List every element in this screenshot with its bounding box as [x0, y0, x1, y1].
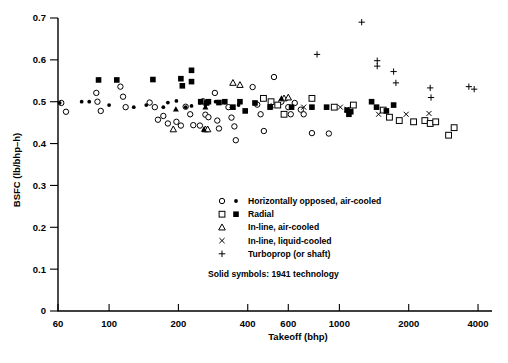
data-point-square-filled — [180, 83, 186, 89]
y-tick-label: 0.6 — [33, 54, 46, 65]
data-point-circle-open — [206, 115, 211, 120]
data-point-cross-x — [404, 112, 409, 117]
legend-label: In-line, liquid-cooled — [248, 236, 332, 246]
data-point-square-filled — [374, 104, 380, 110]
data-point-square-filled — [252, 100, 258, 106]
data-point-square-open — [427, 121, 433, 127]
legend-x-icon — [219, 238, 224, 243]
data-point-circle-open — [301, 112, 306, 117]
data-point-circle-open — [178, 123, 183, 128]
data-point-circle-filled — [132, 105, 136, 109]
data-point-square-filled — [324, 104, 330, 110]
data-point-circle-filled — [166, 101, 170, 105]
legend-label: Turboprop (or shaft) — [248, 249, 331, 259]
data-point-plus — [374, 58, 380, 64]
data-point-circle-filled — [161, 105, 165, 109]
data-point-triangle-open — [237, 82, 243, 88]
legend-square-open-icon — [219, 211, 225, 217]
y-tick-label: 0.2 — [33, 222, 46, 233]
legend-entry: In-line, air-cooled — [219, 222, 319, 232]
x-tick-label: 1000 — [329, 318, 350, 329]
legend-entry: Horizontally opposed, air-cooled — [219, 196, 381, 206]
data-point-square-filled — [206, 99, 212, 105]
scatter-chart-figure: 00.10.20.30.40.50.60.7 60100200400600100… — [0, 0, 508, 363]
data-point-circle-filled — [190, 104, 194, 108]
data-point-square-filled — [189, 68, 195, 74]
data-point-square-open — [350, 102, 356, 108]
data-point-square-open — [261, 95, 267, 101]
data-point-circle-open — [229, 115, 234, 120]
data-point-plus — [359, 19, 365, 25]
data-point-circle-filled — [144, 103, 148, 107]
data-point-circle-filled — [58, 101, 62, 105]
data-point-circle-open — [174, 119, 179, 124]
data-point-circle-open — [271, 74, 276, 79]
data-point-square-filled — [289, 104, 295, 110]
series-7 — [314, 19, 477, 101]
data-point-circle-open — [187, 112, 192, 117]
axis-lines — [58, 18, 492, 311]
legend-circle-open-icon — [219, 198, 224, 203]
data-point-square-filled — [384, 108, 390, 114]
data-point-square-open — [331, 104, 337, 110]
data-point-plus — [427, 85, 433, 91]
axes — [50, 18, 492, 311]
x-tick-label: 2000 — [398, 318, 419, 329]
data-point-square-filled — [114, 77, 120, 83]
data-point-circle-open — [123, 104, 128, 109]
x-tick-label: 400 — [240, 318, 256, 329]
data-point-square-filled — [230, 104, 236, 110]
data-point-plus — [428, 94, 434, 100]
data-point-square-filled — [309, 104, 315, 110]
data-point-circle-open — [161, 113, 166, 118]
data-point-square-filled — [189, 79, 195, 85]
chart-legend: Horizontally opposed, air-cooledRadialIn… — [208, 196, 381, 279]
data-point-square-filled — [216, 100, 222, 106]
legend-entry: In-line, liquid-cooled — [219, 236, 331, 246]
data-point-plus — [374, 63, 380, 69]
x-tick-marks — [58, 304, 478, 311]
data-point-plus — [390, 68, 396, 74]
legend-circle-filled-icon — [234, 199, 238, 203]
data-point-circle-filled — [175, 99, 179, 103]
data-point-circle-open — [94, 90, 99, 95]
data-point-circle-open — [250, 84, 255, 89]
data-point-square-open — [281, 111, 287, 117]
legend-entry: Turboprop (or shaft) — [219, 249, 331, 259]
data-point-circle-open — [63, 109, 68, 114]
data-point-circle-open — [98, 108, 103, 113]
data-point-circle-open — [152, 104, 157, 109]
data-point-cross-x — [376, 112, 381, 117]
x-axis-title: Takeoff (bhp) — [268, 331, 327, 342]
y-tick-label: 0.7 — [33, 12, 46, 23]
legend-entry: Radial — [219, 209, 274, 219]
data-point-plus — [471, 86, 477, 92]
y-tick-label: 0.3 — [33, 180, 46, 191]
data-point-circle-open — [118, 84, 123, 89]
data-point-circle-filled — [80, 100, 84, 104]
data-point-circle-open — [212, 90, 217, 95]
data-point-square-filled — [237, 99, 243, 105]
data-point-circle-open — [258, 112, 263, 117]
y-tick-label: 0.4 — [33, 138, 47, 149]
data-point-circle-open — [95, 99, 100, 104]
x-tick-labels: 60100200400600100020004000 — [53, 318, 489, 329]
data-point-circle-open — [215, 118, 220, 123]
data-point-circle-open — [191, 122, 196, 127]
data-point-square-open — [433, 119, 439, 125]
data-point-circle-open — [326, 131, 331, 136]
y-tick-labels: 00.10.20.30.40.50.60.7 — [33, 12, 47, 316]
data-point-square-filled — [242, 108, 248, 114]
y-tick-label: 0.5 — [33, 96, 47, 107]
data-point-circle-open — [233, 138, 238, 143]
data-point-circle-filled — [107, 103, 111, 107]
x-tick-label: 200 — [170, 318, 186, 329]
x-tick-label: 100 — [101, 318, 117, 329]
data-point-cross-x — [338, 105, 343, 110]
data-point-square-filled — [96, 77, 102, 83]
series-6 — [301, 105, 431, 117]
data-point-plus — [393, 80, 399, 86]
data-point-square-filled — [178, 76, 184, 82]
data-point-circle-open — [155, 117, 160, 122]
data-point-square-open — [451, 125, 457, 131]
